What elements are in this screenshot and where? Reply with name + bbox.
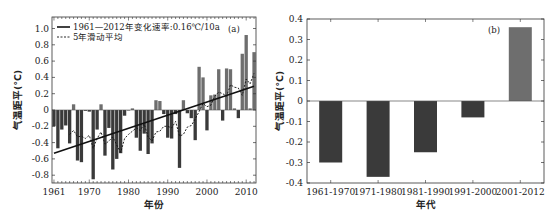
bar-1972 (95, 110, 98, 130)
bar-1961 (52, 110, 55, 126)
x-axis-label: 年份 (144, 199, 164, 210)
annual-bars (52, 35, 255, 179)
x-tick-label: 1970 (78, 187, 101, 197)
bar-1995 (186, 110, 189, 113)
y-tick-label: 0 (43, 105, 49, 115)
bar-2005 (225, 68, 228, 110)
x-tick-label: 2010 (235, 187, 258, 197)
bar-1987 (154, 100, 157, 110)
y-axis-label: 气温距平(℃) (12, 70, 23, 131)
bar-1974 (103, 110, 106, 156)
x-tick-label: 2000 (196, 187, 219, 197)
y-tick-label: -0.4 (32, 138, 50, 148)
legend-trend-label: 1961—2012年变化速率:0.16℃/10a (73, 22, 220, 32)
bar-2002 (213, 95, 216, 110)
bar-1989 (162, 110, 165, 114)
y-tick-label: -0.4 (286, 178, 304, 188)
bar-1981-1990 (414, 101, 437, 152)
bar-1961-1970 (319, 101, 342, 163)
y-tick-label: 0.1 (289, 76, 303, 86)
x-axis-label: 年代 (416, 199, 436, 210)
y-tick-label: -0.1 (286, 117, 303, 127)
climate-anomaly-figure: 1.00.80.60.40.20-0.2-0.4-0.6-0.819611970… (0, 0, 558, 222)
y-tick-label: 0.6 (35, 56, 50, 66)
bar-1984 (143, 110, 146, 134)
y-tick-label: 0.8 (35, 40, 50, 50)
y-tick-label: -0.2 (32, 121, 49, 131)
y-tick-label: -0.2 (286, 137, 303, 147)
x-tick-label: 1961 (43, 187, 66, 197)
y-tick-label: -0.6 (32, 154, 50, 164)
panel-b-decadal-anomaly-chart: 0.40.30.20.10-0.1-0.2-0.3-0.41961-197019… (274, 14, 545, 210)
bar-1982 (135, 110, 138, 138)
panel-label-a: (a) (228, 24, 240, 34)
bar-1971-1980 (367, 101, 390, 177)
bar-1996 (190, 110, 193, 118)
y-tick-label: 0.2 (35, 89, 49, 99)
x-tick-label: 1980 (117, 187, 140, 197)
bar-2000 (205, 110, 208, 130)
y-axis-label: 气温距平(℃) (274, 71, 285, 132)
bar-1968 (80, 110, 83, 162)
bar-2006 (229, 69, 232, 110)
bar-1994 (182, 100, 185, 110)
bar-1991-2000 (461, 101, 484, 117)
y-tick-label: 0 (297, 96, 303, 106)
bar-1962 (56, 110, 59, 148)
x-tick-label: 1990 (156, 187, 179, 197)
bar-1965 (68, 110, 71, 143)
panel-a-annual-anomaly-chart: 1.00.80.60.40.20-0.2-0.4-0.6-0.819611970… (12, 17, 258, 210)
y-tick-label: 0.2 (289, 55, 303, 65)
bar-1979 (123, 110, 126, 116)
bar-2010 (245, 35, 248, 110)
bar-2004 (221, 110, 224, 121)
bar-2003 (217, 69, 220, 110)
y-tick-label: 1.0 (35, 24, 50, 34)
bar-1963 (60, 110, 63, 130)
x-tick-label: 1971-1980 (354, 187, 403, 197)
y-tick-label: 0.3 (289, 35, 304, 45)
bar-1973 (99, 104, 102, 110)
bar-2008 (237, 110, 240, 118)
bar-1986 (150, 110, 153, 143)
y-tick-label: -0.8 (32, 170, 50, 180)
panel-label-b: (b) (488, 25, 500, 35)
y-tick-label: 0.4 (35, 72, 50, 82)
bar-1977 (115, 110, 118, 159)
bar-1964 (64, 110, 67, 125)
y-tick-label: 0.4 (289, 14, 304, 24)
x-tick-label: 1991-2000 (448, 187, 497, 197)
bar-1993 (178, 110, 181, 168)
bar-2001-2012 (509, 27, 532, 101)
legend-ma-label: 5年滑动平均 (73, 32, 123, 42)
x-tick-label: 2001-2012 (496, 187, 545, 197)
x-tick-label: 1981-1990 (401, 187, 450, 197)
y-tick-label: -0.3 (286, 158, 304, 168)
bar-1966 (72, 104, 75, 110)
bar-1988 (158, 101, 161, 110)
bar-2009 (241, 54, 244, 110)
bar-1997 (194, 110, 197, 140)
bar-1975 (107, 110, 110, 128)
x-tick-label: 1961-1970 (306, 187, 355, 197)
